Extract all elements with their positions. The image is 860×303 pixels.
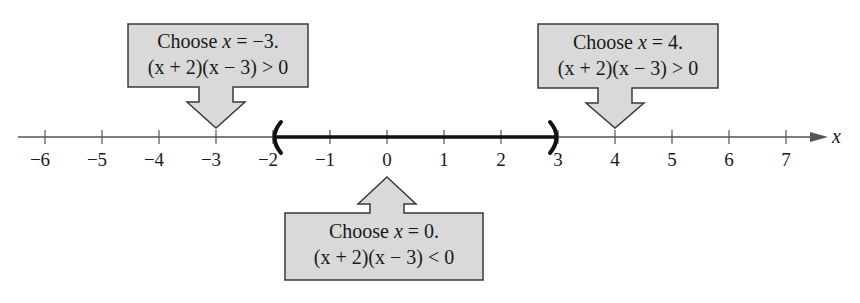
axis-arrow-icon: [810, 132, 828, 142]
tick-label: −4: [144, 149, 165, 170]
tick-label: −2: [258, 149, 278, 170]
tick-label: 2: [496, 149, 506, 170]
callout-line2: (x + 2)(x − 3) < 0: [285, 244, 483, 270]
tick-label: −3: [201, 149, 221, 170]
tick-label: −6: [30, 149, 50, 170]
callout-line1: Choose x = 4.: [538, 29, 718, 55]
callout-test-x-neg3: Choose x = −3. (x + 2)(x − 3) > 0: [128, 28, 308, 80]
axis-variable-label: x: [831, 125, 841, 147]
callout-line2: (x + 2)(x − 3) > 0: [128, 54, 308, 80]
callout-line1: Choose x = 0.: [285, 218, 483, 244]
tick-label: 7: [781, 149, 791, 170]
tick-label: 3: [553, 149, 563, 170]
tick-label: 0: [382, 149, 392, 170]
tick-label: 6: [724, 149, 734, 170]
tick-label: 1: [439, 149, 449, 170]
tick-label: −1: [315, 149, 335, 170]
tick-label: 4: [610, 149, 620, 170]
callout-test-x-4: Choose x = 4. (x + 2)(x − 3) > 0: [538, 29, 718, 81]
callout-line1: Choose x = −3.: [128, 28, 308, 54]
tick-label: 5: [667, 149, 677, 170]
callout-test-x-0: Choose x = 0. (x + 2)(x − 3) < 0: [285, 218, 483, 270]
tick-label: −5: [87, 149, 107, 170]
callout-line2: (x + 2)(x − 3) > 0: [538, 55, 718, 81]
tick-labels: −6 −5 −4 −3 −2 −1 0 1 2 3 4 5 6 7: [30, 149, 791, 170]
